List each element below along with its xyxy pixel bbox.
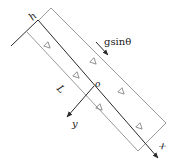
origin-label: o bbox=[95, 79, 101, 89]
flow-marker-icon bbox=[44, 42, 52, 50]
force-label: gsinθ bbox=[104, 36, 131, 47]
flow-marker-icon bbox=[118, 88, 126, 96]
flow-marker-icon bbox=[90, 58, 98, 66]
flow-marker-icon bbox=[73, 72, 81, 80]
x-axis-label: x bbox=[157, 140, 169, 152]
length-label: L bbox=[54, 82, 67, 95]
y-axis bbox=[67, 86, 94, 117]
y-axis-label: y bbox=[71, 118, 78, 129]
flow-marker-icon bbox=[136, 123, 144, 131]
inclined-layer-diagram: h gsinθ o L y x bbox=[0, 0, 176, 166]
thickness-line bbox=[11, 20, 38, 46]
